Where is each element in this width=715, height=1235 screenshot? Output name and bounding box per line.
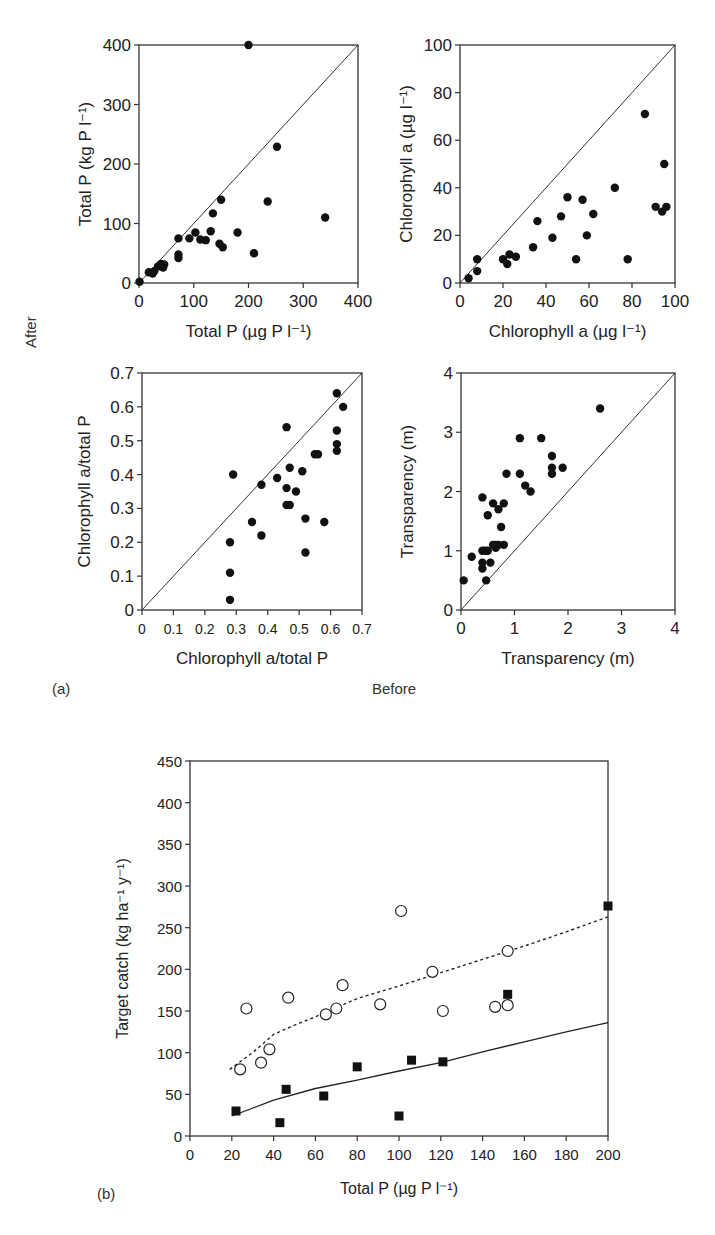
y-tick-label: 350 (157, 836, 182, 853)
data-point (583, 231, 591, 239)
data-point (512, 253, 520, 261)
one-to-one-line (461, 373, 675, 610)
filled-square-point (282, 1085, 291, 1094)
panel-a-label: (a) (52, 680, 70, 697)
x-tick-label: 80 (623, 292, 642, 311)
one-to-one-line (139, 45, 358, 283)
data-point (174, 254, 182, 262)
data-point (557, 212, 565, 220)
data-point (459, 576, 467, 584)
y-tick-label: 100 (157, 1045, 182, 1062)
x-tick-label: 400 (344, 292, 372, 311)
x-tick-label: 300 (289, 292, 317, 311)
y-tick-label: 0.4 (110, 466, 134, 485)
x-tick-label: 0.5 (289, 621, 309, 637)
x-tick-label: 140 (470, 1146, 495, 1163)
open-circle-point (437, 1006, 448, 1017)
data-point (257, 481, 265, 489)
y-tick-label: 150 (157, 1003, 182, 1020)
x-tick-label: 0.7 (352, 621, 372, 637)
open-circle-point (396, 906, 407, 917)
data-point (226, 538, 234, 546)
x-tick-label: 100 (661, 292, 689, 311)
x-tick-label: 60 (307, 1146, 324, 1163)
data-point (503, 260, 511, 268)
open-circle-point (241, 1003, 252, 1014)
y-tick-label: 0 (444, 601, 453, 620)
y-axis-label: Transparency (m) (398, 425, 417, 559)
open-circle-point (502, 1000, 513, 1011)
data-point (273, 474, 281, 482)
y-tick-label: 0 (122, 274, 131, 293)
data-point (202, 236, 210, 244)
data-point (320, 518, 328, 526)
y-tick-label: 20 (433, 226, 452, 245)
data-point (537, 434, 545, 442)
data-point (233, 228, 241, 236)
y-tick-label: 400 (103, 36, 131, 55)
y-tick-label: 0 (174, 1128, 182, 1145)
data-point (257, 531, 265, 539)
data-point (497, 523, 505, 531)
x-axis-label: Transparency (m) (501, 649, 635, 668)
open-circle-point (375, 999, 386, 1010)
data-point (482, 576, 490, 584)
x-tick-label: 100 (180, 292, 208, 311)
data-point (473, 267, 481, 275)
x-tick-label: 2 (563, 619, 572, 638)
x-tick-label: 0 (456, 619, 465, 638)
y-tick-label: 0.6 (110, 398, 134, 417)
x-tick-label: 40 (537, 292, 556, 311)
data-point (226, 596, 234, 604)
x-tick-label: 0.2 (195, 621, 215, 637)
figure-canvas: 01002003004000100200300400Total P (µg P … (0, 0, 715, 1235)
data-point (273, 143, 281, 151)
data-point (301, 514, 309, 522)
data-point (516, 434, 524, 442)
y-tick-label: 4 (444, 364, 453, 383)
y-tick-label: 300 (157, 878, 182, 895)
chart-tp: 01002003004000100200300400Total P (µg P … (76, 36, 372, 341)
y-tick-label: 0.5 (110, 432, 134, 451)
y-tick-label: 100 (424, 36, 452, 55)
data-point (263, 197, 271, 205)
x-tick-label: 0.4 (258, 621, 278, 637)
data-point (662, 203, 670, 211)
y-axis-label: Chlorophyll a/total P (75, 415, 94, 567)
data-point (333, 389, 341, 397)
x-tick-label: 200 (234, 292, 262, 311)
panel-b-label: (b) (97, 1185, 115, 1202)
data-point (548, 452, 556, 460)
solid-trend-line (232, 1023, 608, 1116)
y-tick-label: 200 (157, 961, 182, 978)
chart-ratio: 00.10.20.30.40.50.60.700.10.20.30.40.50.… (75, 364, 372, 668)
x-axis-label: Chlorophyll a/total P (176, 649, 328, 668)
plot-frame (190, 761, 608, 1136)
data-point (333, 426, 341, 434)
filled-square-point (438, 1057, 447, 1066)
data-point (229, 470, 237, 478)
data-point (473, 255, 481, 263)
data-point (529, 243, 537, 251)
data-point (548, 234, 556, 242)
chart-catch: 0204060801001201401601802000501001502002… (114, 753, 621, 1197)
data-point (185, 234, 193, 242)
x-axis-label: Total P (µg P l⁻¹) (186, 322, 312, 341)
data-point (286, 464, 294, 472)
y-tick-label: 200 (103, 155, 131, 174)
data-point (468, 552, 476, 560)
x-tick-label: 200 (595, 1146, 620, 1163)
one-to-one-line (460, 45, 675, 283)
y-tick-label: 250 (157, 920, 182, 937)
y-tick-label: 1 (444, 542, 453, 561)
data-point (135, 278, 143, 286)
data-point (660, 160, 668, 168)
open-circle-point (427, 966, 438, 977)
y-tick-label: 3 (444, 423, 453, 442)
data-point (286, 501, 294, 509)
open-circle-point (331, 1003, 342, 1014)
data-point (248, 518, 256, 526)
y-tick-label: 0 (443, 274, 452, 293)
data-point (226, 569, 234, 577)
y-tick-label: 2 (444, 483, 453, 502)
